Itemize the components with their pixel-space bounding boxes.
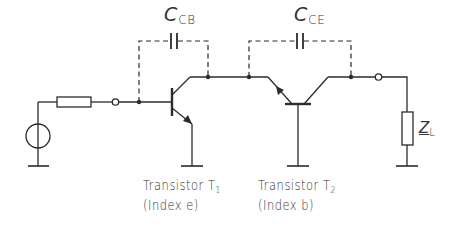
ccb-subscript: CB xyxy=(178,13,195,27)
t1-label-line2: (Index e) xyxy=(143,199,199,213)
load-label: ZL xyxy=(419,121,435,138)
t2-subscript: 2 xyxy=(331,185,336,195)
t1-subscript: 1 xyxy=(216,185,221,195)
t2-label-line1: Transistor T2 xyxy=(258,179,336,195)
transistor-t2-icon xyxy=(268,77,328,166)
source-resistor-icon xyxy=(57,97,112,107)
ccb-label: CCB xyxy=(164,5,196,26)
t2-label-text: Transistor T xyxy=(258,177,331,193)
load-symbol: Z xyxy=(419,119,429,137)
load-subscript: L xyxy=(429,127,435,138)
circuit-schematic xyxy=(0,0,461,231)
input-terminal-icon xyxy=(112,99,118,105)
voltage-source-icon xyxy=(26,102,57,166)
t1-label-line1: Transistor T1 xyxy=(143,179,221,195)
output-terminal-icon xyxy=(375,74,381,80)
transistor-t1-icon xyxy=(172,77,203,166)
capacitor-ccb-icon xyxy=(139,33,208,102)
cce-symbol: C xyxy=(294,3,307,25)
cce-subscript: CE xyxy=(308,13,325,27)
cce-label: CCE xyxy=(294,5,325,26)
capacitor-cce-icon xyxy=(249,33,351,77)
t2-label-line2: (Index b) xyxy=(258,199,314,213)
ccb-symbol: C xyxy=(164,3,177,25)
load-impedance-icon xyxy=(396,112,418,166)
t1-label-text: Transistor T xyxy=(143,177,216,193)
